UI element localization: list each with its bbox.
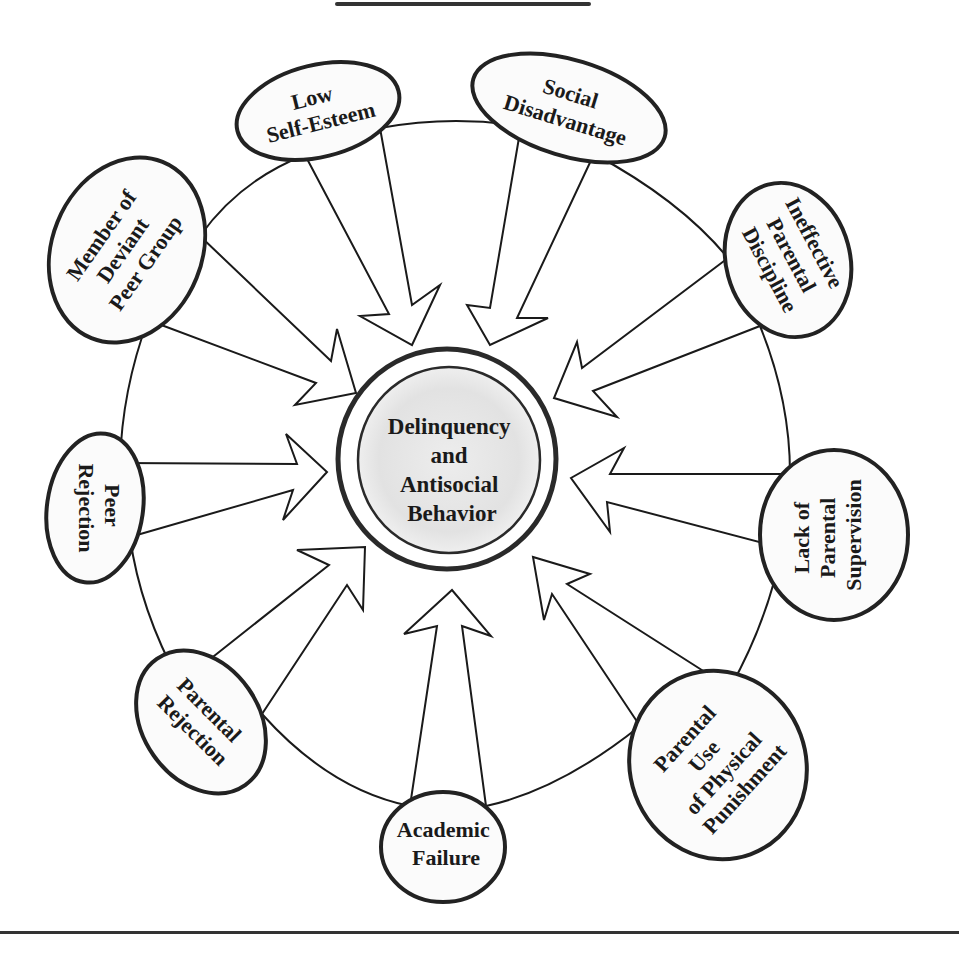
factor-parental-use-of-physical-punishment: Parental Use of Physical Punishment: [603, 646, 833, 885]
bottom-rule: [0, 931, 959, 934]
factor-member-of-deviant-peer-group: Member of Deviant Peer Group: [22, 134, 232, 366]
arrow-academic-failure: [404, 590, 491, 806]
arrow-lack-supervision: [571, 448, 790, 548]
factor-lack-of-parental-supervision: Lack of Parental Supervision: [760, 450, 908, 620]
center-node: Delinquency and Antisocial Behavior: [338, 349, 556, 569]
influence-diagram: Delinquency and Antisocial Behavior Low …: [0, 0, 959, 954]
factor-low-self-esteem: Low Self-Esteem: [226, 46, 409, 175]
factor-social-disadvantage: Social Disadvantage: [459, 33, 678, 183]
factor-parental-rejection: Parental Rejection: [109, 626, 292, 819]
factor-academic-failure: Academic Failure: [381, 792, 505, 902]
arrow-low-self-esteem: [305, 128, 440, 345]
arrow-peer-rejection: [120, 434, 327, 537]
factor-ineffective-parental-discipline: Ineffective Parental Discipline: [708, 169, 868, 352]
